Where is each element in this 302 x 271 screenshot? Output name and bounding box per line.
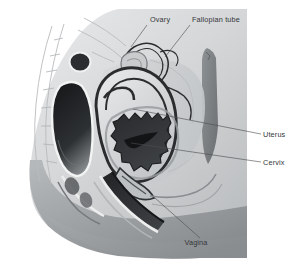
label-ovary: Ovary xyxy=(150,15,170,24)
anatomy-illustration-svg: Ovary Fallopian tube Uterus Cervix Vagin… xyxy=(0,0,302,271)
pubic-bone-structure xyxy=(70,53,91,72)
label-cervix: Cervix xyxy=(263,158,285,167)
label-vagina: Vagina xyxy=(184,238,208,247)
label-fallopian-tube: Fallopian tube xyxy=(192,15,240,24)
label-uterus: Uterus xyxy=(263,130,286,139)
anatomy-diagram: Ovary Fallopian tube Uterus Cervix Vagin… xyxy=(0,0,302,271)
